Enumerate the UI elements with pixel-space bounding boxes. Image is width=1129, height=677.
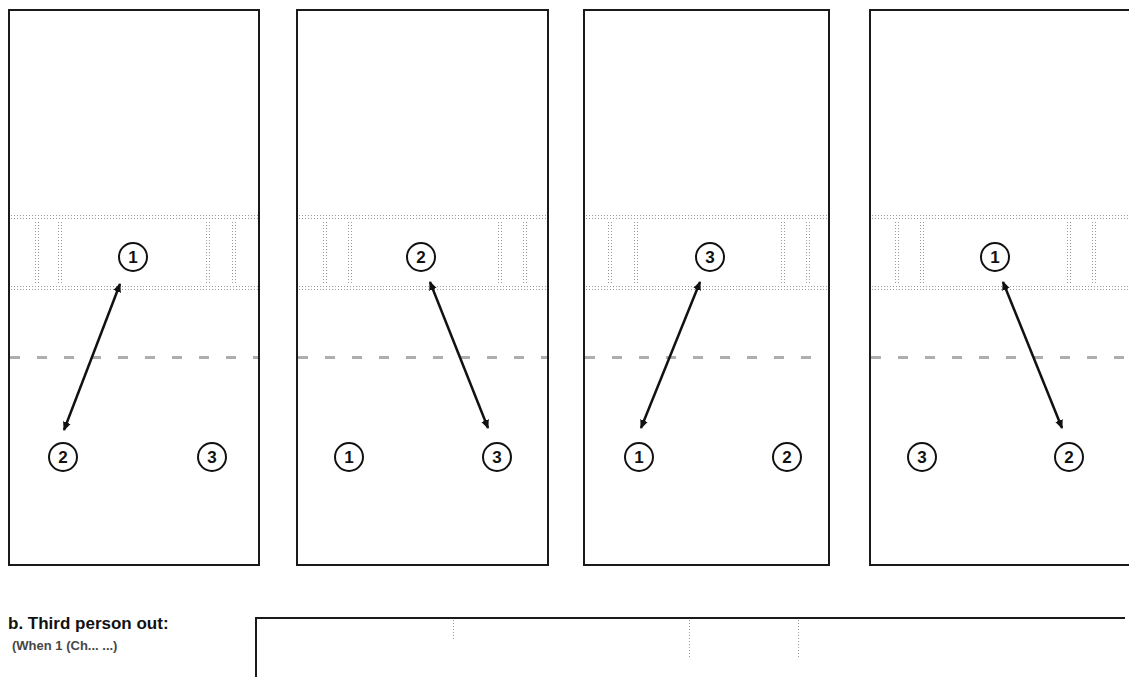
antenna-post	[805, 221, 810, 285]
attack-line	[298, 356, 547, 359]
antenna-post	[607, 221, 612, 285]
court-panel-4: 1 3 2	[869, 9, 1129, 566]
antenna-post	[347, 221, 352, 285]
antenna-post	[919, 221, 924, 285]
player-circle-back-left: 2	[48, 442, 78, 472]
antenna-post	[231, 221, 236, 285]
court-panel-2: 2 1 3	[296, 9, 549, 566]
net-bottom-edge	[585, 285, 828, 292]
section-b-title: b. Third person out:	[8, 614, 169, 634]
attack-line	[585, 356, 828, 359]
net-top-edge	[10, 214, 258, 221]
court-panel-1: 1 2 3	[8, 9, 260, 566]
player-circle-back-left: 1	[624, 442, 654, 472]
antenna-post	[1091, 221, 1096, 285]
antenna-post	[780, 221, 785, 285]
player-circle-back-left: 3	[907, 442, 937, 472]
net-top-edge	[298, 214, 547, 221]
antenna-post	[57, 221, 62, 285]
player-circle-net: 3	[695, 242, 725, 272]
antenna-post	[452, 619, 456, 639]
antenna-post	[205, 221, 210, 285]
section-b-subtitle-clipped: (When 1 (Ch... ...)	[12, 638, 117, 653]
net-top-edge	[585, 214, 828, 221]
player-circle-net: 1	[980, 242, 1010, 272]
antenna-post	[894, 221, 899, 285]
net-bottom-edge	[10, 285, 258, 292]
antenna-post	[797, 619, 801, 659]
antenna-post	[1066, 221, 1071, 285]
court-panel-b	[255, 617, 1125, 677]
antenna-post	[633, 221, 638, 285]
court-panel-3: 3 1 2	[583, 9, 830, 566]
player-circle-back-right: 3	[482, 442, 512, 472]
player-circle-back-right: 3	[197, 442, 227, 472]
net-top-edge	[871, 214, 1129, 221]
antenna-post	[322, 221, 327, 285]
player-circle-net: 2	[406, 242, 436, 272]
player-circle-back-right: 2	[772, 442, 802, 472]
antenna-post	[497, 221, 502, 285]
player-circle-back-left: 1	[334, 442, 364, 472]
antenna-post	[688, 619, 692, 659]
attack-line	[871, 356, 1129, 359]
antenna-post	[34, 221, 39, 285]
antenna-post	[522, 221, 527, 285]
player-circle-back-right: 2	[1054, 442, 1084, 472]
net-bottom-edge	[298, 285, 547, 292]
player-circle-net: 1	[118, 242, 148, 272]
attack-line	[10, 356, 258, 359]
net-bottom-edge	[871, 285, 1129, 292]
